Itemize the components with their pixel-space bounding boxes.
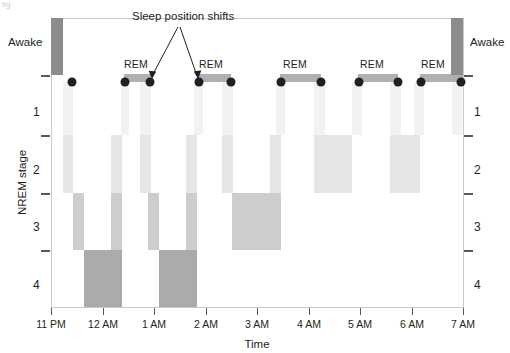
x-tick-mark xyxy=(154,308,155,315)
stage-bar xyxy=(232,193,243,250)
y-tick-label-right: 2 xyxy=(474,163,481,177)
stage-bar xyxy=(111,193,122,250)
y-tick-label-right: 4 xyxy=(474,278,481,292)
awake-bar xyxy=(451,18,463,75)
stage-bar xyxy=(352,82,362,135)
y-tick-mark-right xyxy=(464,75,473,77)
stage-bar xyxy=(73,193,84,250)
stage-bar xyxy=(140,82,151,135)
stage-bar xyxy=(148,193,159,250)
stage-bar xyxy=(414,82,424,135)
x-tick-label: 6 AM xyxy=(400,318,424,330)
rem-label: REM xyxy=(283,58,307,70)
position-shift-dot xyxy=(68,78,77,87)
rem-bar xyxy=(280,74,321,82)
position-shift-dot xyxy=(394,78,403,87)
x-tick-label: 7 AM xyxy=(451,318,475,330)
position-shift-dot xyxy=(355,78,364,87)
position-shift-dot xyxy=(227,78,236,87)
x-tick-mark xyxy=(309,308,310,315)
stage-bar xyxy=(186,135,197,193)
x-tick-mark xyxy=(412,308,413,315)
stage-bar xyxy=(243,193,281,250)
y-tick-label-right: 3 xyxy=(474,220,481,234)
position-shift-dot xyxy=(146,78,155,87)
awake-label-left: Awake xyxy=(8,36,42,48)
position-shift-dot xyxy=(195,78,204,87)
y-tick-mark-left xyxy=(41,75,50,77)
position-shift-dot xyxy=(317,78,326,87)
rem-label: REM xyxy=(421,58,445,70)
stage-bar xyxy=(159,250,197,307)
y-tick-label-left: 1 xyxy=(33,105,40,119)
y-tick-label-left: 3 xyxy=(33,220,40,234)
x-tick-mark xyxy=(463,308,464,315)
stage-bar xyxy=(63,135,73,193)
awake-label-right: Awake xyxy=(470,36,504,48)
stage-bar xyxy=(63,82,73,135)
stage-bar xyxy=(314,82,325,135)
rem-bar xyxy=(358,74,398,82)
stage-bar xyxy=(111,135,122,193)
stage-bar xyxy=(314,135,352,193)
y-tick-mark-right xyxy=(464,193,473,195)
stage-bar xyxy=(452,82,462,135)
position-shift-dot xyxy=(417,78,426,87)
rem-label: REM xyxy=(360,58,384,70)
stage-bar xyxy=(121,82,129,135)
rem-label: REM xyxy=(124,58,148,70)
stage-bar xyxy=(390,82,401,135)
plot-frame-top xyxy=(51,18,463,19)
stage-bar xyxy=(84,250,122,307)
annotation-arrows xyxy=(0,0,510,353)
x-tick-label: 4 AM xyxy=(297,318,321,330)
y-tick-mark-left xyxy=(41,193,50,195)
y-tick-mark-right xyxy=(464,250,473,252)
y-tick-label-left: 2 xyxy=(33,163,40,177)
x-tick-label: 5 AM xyxy=(348,318,372,330)
x-tick-mark xyxy=(103,308,104,315)
x-tick-label: 12 AM xyxy=(88,318,118,330)
stage-bar xyxy=(140,135,151,193)
y-tick-mark-left xyxy=(41,135,50,137)
x-tick-mark xyxy=(257,308,258,315)
x-tick-mark xyxy=(206,308,207,315)
y-tick-mark-right xyxy=(464,135,473,137)
position-shift-dot xyxy=(457,78,466,87)
stage-bar xyxy=(186,193,197,250)
plot-frame-right xyxy=(463,18,464,307)
x-tick-label: 3 AM xyxy=(245,318,269,330)
stage-bar xyxy=(194,82,203,135)
x-tick-label: 1 AM xyxy=(142,318,166,330)
y-tick-label-right: 1 xyxy=(474,105,481,119)
page-corner-artifact: fig xyxy=(2,0,10,9)
y-axis-title: NREM stage xyxy=(16,150,28,215)
y-tick-label-left: 4 xyxy=(33,278,40,292)
x-tick-mark xyxy=(51,308,52,315)
x-tick-mark xyxy=(360,308,361,315)
x-tick-label: 2 AM xyxy=(194,318,218,330)
x-tick-label: 11 PM xyxy=(36,318,66,330)
y-tick-mark-left xyxy=(41,250,50,252)
awake-bar xyxy=(51,18,63,75)
stage-bar xyxy=(390,135,420,193)
stage-bar xyxy=(222,135,233,193)
position-shift-dot xyxy=(277,78,286,87)
position-shift-dot xyxy=(121,78,130,87)
stage-bar xyxy=(270,135,281,193)
x-axis-title: Time xyxy=(244,338,269,350)
sleep-position-shifts-annotation: Sleep position shifts xyxy=(132,10,234,22)
stage-bar xyxy=(222,82,233,135)
rem-label: REM xyxy=(199,58,223,70)
stage-bar xyxy=(276,82,285,135)
hypnogram-figure: fig REMREMREMREMREM 11223344 11 PM12 AM1… xyxy=(0,0,510,353)
